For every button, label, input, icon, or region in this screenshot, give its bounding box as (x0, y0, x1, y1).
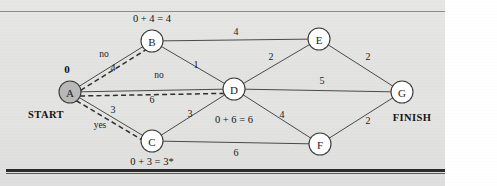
edge-d-f (243, 95, 310, 138)
start-label: START (28, 109, 64, 120)
node-label-e: E (316, 34, 323, 46)
node-distance-b: 0 + 4 = 4 (133, 13, 172, 24)
node-label-d: D (230, 84, 238, 96)
node-distance-c: 0 + 3 = 3* (130, 156, 173, 167)
edge-weight-a-b: 4 (111, 62, 116, 73)
edge-weight-a-d: 6 (150, 94, 155, 105)
node-label-c: C (148, 136, 155, 148)
edge-weight-c-d: 3 (188, 108, 193, 119)
node-a[interactable]: A (59, 81, 81, 103)
edge-weight-d-e: 2 (269, 51, 274, 62)
trace-path-a-c (76, 101, 141, 140)
edge-weight-c-f: 6 (234, 147, 239, 158)
trace-label-a-c: yes (94, 120, 107, 130)
edge-f-g (329, 98, 392, 138)
edge-b-e (163, 39, 308, 41)
edge-weight-d-g: 5 (320, 75, 325, 86)
node-distance-d: 0 + 6 = 6 (215, 114, 253, 125)
node-label-b: B (148, 36, 155, 48)
edge-weight-f-g: 2 (366, 115, 371, 126)
edge-weight-a-c: 3 (111, 104, 116, 115)
edge-e-g (328, 45, 392, 86)
node-g[interactable]: G (391, 81, 413, 103)
edge-c-f (163, 141, 309, 144)
trace-labels-layer: nonoyes (94, 49, 164, 130)
node-c[interactable]: C (141, 130, 163, 152)
node-b[interactable]: B (141, 30, 163, 52)
trace-label-a-d: no (154, 70, 164, 80)
edge-d-e (243, 45, 309, 84)
edge-weight-d-f: 4 (280, 109, 285, 120)
node-f[interactable]: F (309, 133, 331, 155)
edge-a-d (81, 89, 223, 92)
node-label-a: A (66, 87, 74, 99)
edge-weight-b-d: 1 (194, 59, 199, 70)
node-distance-a: 0 (64, 63, 70, 75)
figure-container: 436143624522 nonoyes ABCDEFG 0 + 4 = 40 … (0, 0, 497, 186)
node-label-g: G (398, 87, 406, 99)
node-e[interactable]: E (308, 28, 330, 50)
graph-svg: 436143624522 nonoyes ABCDEFG 0 + 4 = 40 … (0, 0, 497, 186)
trace-label-a-b: no (99, 49, 109, 59)
edge-weight-b-e: 4 (234, 26, 239, 37)
node-label-f: F (317, 139, 323, 151)
node-d[interactable]: D (223, 78, 245, 100)
finish-label: FINISH (393, 112, 432, 123)
edge-weight-e-g: 2 (366, 51, 371, 62)
edge-d-g (245, 89, 391, 92)
